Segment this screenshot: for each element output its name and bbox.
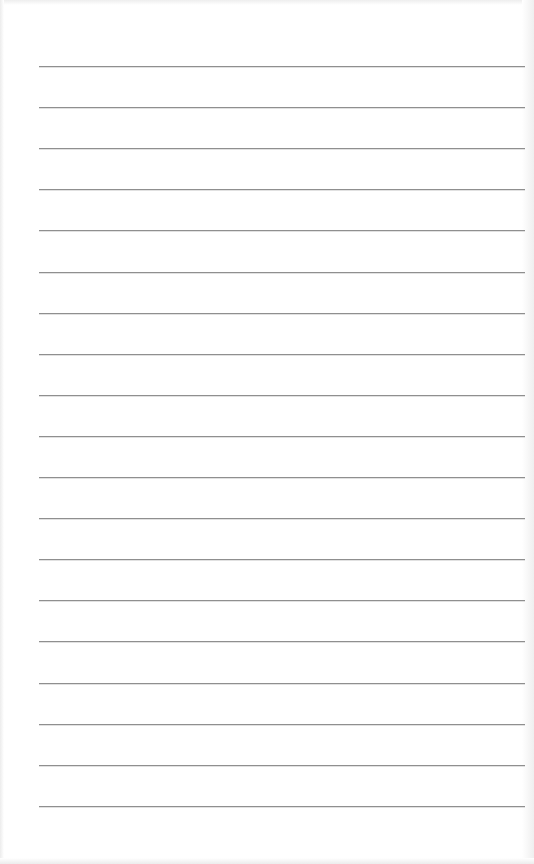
ruled-line [39, 641, 525, 642]
ruled-line [39, 230, 525, 231]
page-edge-top [0, 0, 534, 5]
ruled-line [39, 806, 525, 807]
page-edge-right [522, 0, 534, 864]
page-edge-left [0, 0, 4, 864]
ruled-line [39, 559, 525, 560]
ruled-line [39, 313, 525, 314]
ruled-line [39, 148, 525, 149]
ruled-line [39, 107, 525, 108]
ruled-line [39, 189, 525, 190]
ruled-line [39, 395, 525, 396]
ruled-line [39, 683, 525, 684]
ruled-line [39, 436, 525, 437]
ruled-line [39, 600, 525, 601]
ruled-line [39, 66, 525, 67]
lined-paper-page [0, 0, 534, 864]
ruled-line [39, 518, 525, 519]
ruled-line [39, 272, 525, 273]
page-edge-bottom [0, 858, 534, 864]
ruled-line [39, 724, 525, 725]
ruled-line [39, 765, 525, 766]
ruled-line [39, 354, 525, 355]
ruled-line [39, 477, 525, 478]
